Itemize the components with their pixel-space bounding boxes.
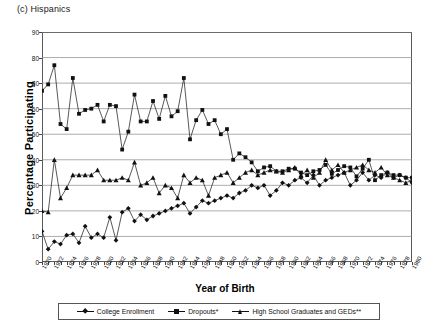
data-point [262,183,267,188]
x-axis-ticks: 1920192219241926192819301932193419361938… [42,262,412,306]
data-point [139,120,143,124]
data-point [64,185,69,190]
x-tick-label: 1980 [411,255,423,270]
legend-marker-square-icon [168,308,185,315]
legend-marker-triangle-icon [232,308,249,315]
series-square [42,63,412,182]
y-tick-label: 90 [32,29,39,36]
series-line [42,65,412,180]
data-point [360,162,365,167]
y-tick-mark [39,211,42,212]
data-point [151,99,155,103]
data-point [83,108,87,112]
y-tick-label: 40 [32,156,39,163]
data-point [206,201,211,206]
data-point [145,120,149,124]
data-point [225,127,229,131]
data-point [151,175,156,180]
data-point [170,114,174,118]
data-point [102,120,106,124]
data-point [268,168,273,173]
data-point [58,242,63,247]
y-tick-mark [39,58,42,59]
legend-item: College Enrollment [77,308,154,315]
data-point [95,168,100,173]
data-point [101,235,106,240]
chart-legend: College EnrollmentDropouts*High School G… [58,303,380,320]
data-point [200,108,204,112]
data-point [83,224,88,229]
data-point [126,130,130,134]
data-point [169,185,174,190]
data-point [329,175,334,180]
data-point [176,109,180,113]
data-point [262,170,267,175]
y-tick-mark [39,160,42,161]
data-point [46,82,50,86]
data-point [212,198,217,203]
plot-area: 0102030405060708090 [42,32,412,262]
series-triangle [42,157,412,214]
legend-item: High School Graduates and GEDs** [232,308,361,315]
data-point [175,203,180,208]
data-point [52,63,56,67]
data-point [200,178,205,183]
data-point [342,164,346,168]
data-point [107,215,112,220]
chart-figure: (c) Hispanics Percentage Participating Y… [0,0,436,328]
data-point [237,151,241,155]
data-point [397,178,402,183]
data-point [225,193,230,198]
data-point [262,166,266,170]
legend-label: High School Graduates and GEDs** [252,308,361,315]
y-tick-mark [39,109,42,110]
data-point [244,155,248,159]
data-point [108,103,112,107]
y-tick-mark [39,83,42,84]
data-point [212,175,217,180]
data-point [169,206,174,211]
y-tick-label: 10 [32,233,39,240]
data-point [70,231,75,236]
y-tick-mark [39,185,42,186]
data-point [256,169,260,173]
data-point [194,118,198,122]
data-point [157,117,161,121]
data-point [355,174,359,178]
y-tick-label: 20 [32,207,39,214]
data-point [243,170,248,175]
y-tick-mark [39,32,42,33]
data-point [132,160,137,165]
data-series-group [42,63,412,251]
data-point [120,175,125,180]
data-point [373,178,377,182]
data-point [151,214,156,219]
data-point [95,231,100,236]
panel-title: (c) Hispanics [17,4,70,14]
data-point [175,196,180,201]
data-point [114,104,118,108]
legend-glyph [238,309,242,314]
data-point [42,229,44,234]
data-point [188,137,192,141]
data-point [120,210,125,215]
data-point [225,170,230,175]
data-point [126,206,131,211]
data-point [255,185,260,190]
data-point [77,240,82,245]
data-point [157,211,162,216]
data-point [336,162,341,167]
data-point [218,196,223,201]
data-point [163,208,168,213]
data-point [114,238,119,243]
data-point [59,122,63,126]
legend-label: College Enrollment [97,308,154,315]
data-point [324,163,328,167]
data-point [126,178,131,183]
data-point [268,164,272,168]
data-point [182,76,186,80]
data-point [133,93,137,97]
data-point [330,172,334,176]
data-point [89,235,94,240]
data-point [194,175,199,180]
